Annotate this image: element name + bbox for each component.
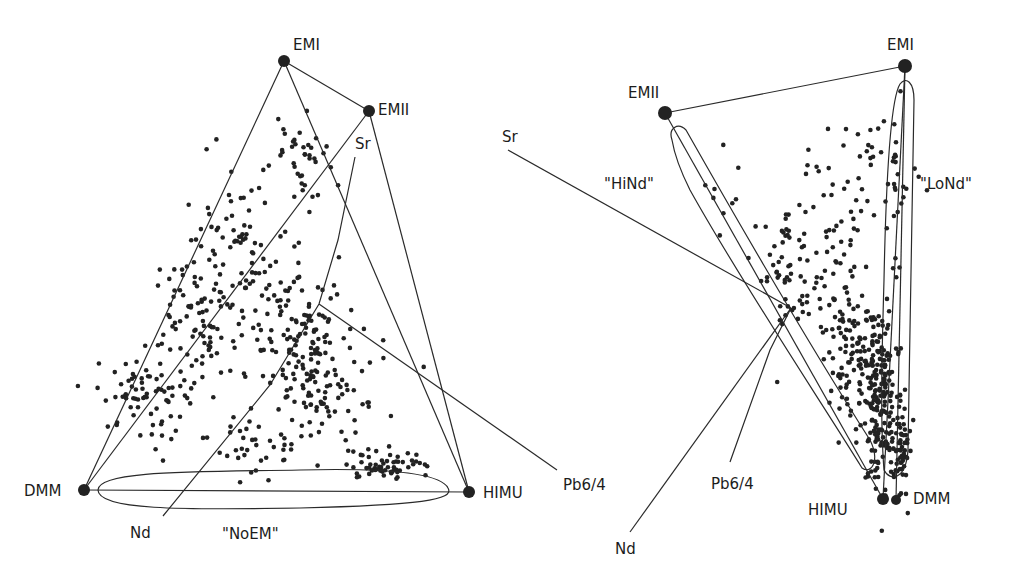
- edge-emi-himu: [284, 61, 469, 492]
- label-right-nd: Nd: [615, 542, 636, 557]
- label-right-himu: HIMU: [808, 503, 848, 518]
- edge-dmm-himu: [84, 490, 469, 492]
- endmember-emi-marker: [898, 59, 912, 73]
- label-field-lond: "LoNd": [920, 177, 972, 192]
- axis-pb64: [730, 308, 791, 462]
- label-field-noem: "NoEM": [222, 527, 279, 542]
- label-left-emi: EMI: [293, 38, 320, 53]
- label-left-nd: Nd: [130, 526, 151, 541]
- label-left-himu: HIMU: [483, 486, 523, 501]
- label-right-pb64: Pb6/4: [711, 477, 754, 492]
- label-right-emii: EMII: [628, 86, 659, 101]
- axis-nd: [630, 308, 791, 532]
- label-left-sr: Sr: [355, 137, 371, 152]
- diagram-canvas: EMI EMII DMM HIMU Sr Nd Pb6/4 "NoEM" EMI…: [0, 0, 1022, 581]
- endmember-emii-marker: [363, 105, 375, 117]
- edge-emii-himu: [369, 111, 469, 492]
- axis-pb64: [319, 304, 557, 470]
- label-right-sr: Sr: [502, 130, 518, 145]
- label-field-hind: "HiNd": [604, 177, 654, 192]
- label-right-dmm: DMM: [913, 492, 950, 507]
- endmember-emii-marker: [658, 106, 672, 120]
- endmember-dmm-marker: [891, 495, 901, 505]
- right-tetrahedron: [508, 59, 914, 532]
- edge-emii-emi: [665, 66, 905, 113]
- edge-emi-dmm: [84, 61, 284, 490]
- label-right-emi: EMI: [887, 38, 914, 53]
- label-left-emii: EMII: [378, 103, 409, 118]
- left-sample-points: [76, 109, 430, 485]
- endmember-himu-marker: [877, 493, 889, 505]
- edge-emii-dmm: [84, 111, 369, 490]
- endmember-emi-marker: [278, 55, 290, 67]
- edge-emi-emii: [284, 61, 369, 111]
- label-left-pb64: Pb6/4: [563, 478, 606, 493]
- axis-sr: [508, 150, 791, 308]
- label-left-dmm: DMM: [24, 484, 61, 499]
- endmember-dmm-marker: [78, 484, 90, 496]
- endmember-himu-marker: [463, 486, 475, 498]
- right-sample-points: [703, 89, 929, 533]
